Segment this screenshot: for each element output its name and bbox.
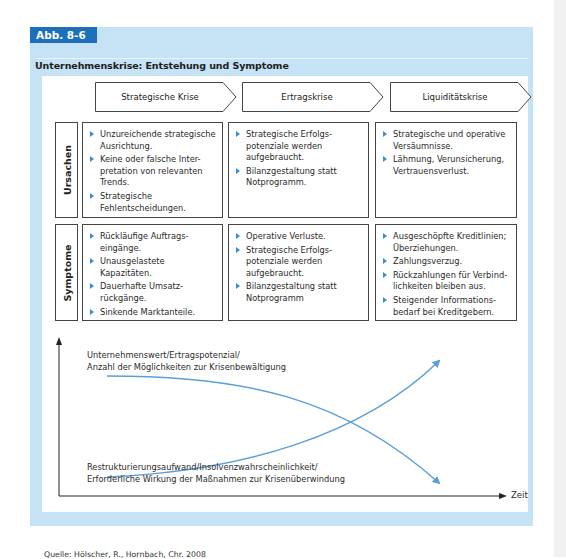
y-axis-arrow-icon — [56, 337, 62, 345]
diagram-area: Strategische Krise Ertragskrise Liquidit… — [42, 76, 528, 512]
crisis-curve-graph — [42, 76, 528, 512]
label-line: Anzahl der Möglichkeiten zur Krisenbewäl… — [87, 361, 286, 373]
figure-panel: Abb. 8-6 Unternehmenskrise: Entstehung u… — [30, 27, 533, 526]
source-citation: Quelle: Hölscher, R., Hornbach, Chr. 200… — [44, 550, 206, 559]
x-axis-label: Zeit — [511, 489, 528, 500]
title-divider — [36, 58, 528, 59]
figure-number-tab: Abb. 8-6 — [30, 27, 97, 43]
curve-increasing-label: Restrukturierungsaufwand/Insolvenzwahrsc… — [87, 461, 345, 485]
label-line: Unternehmenswert/Ertragspotenzial/ — [87, 349, 286, 361]
figure-title: Unternehmenskrise: Entstehung und Sympto… — [35, 60, 289, 71]
curve-increasing — [107, 361, 439, 477]
label-line: Erforderliche Wirkung der Maßnahmen zur … — [87, 473, 345, 485]
label-line: Restrukturierungsaufwand/Insolvenzwahrsc… — [87, 461, 345, 473]
x-axis-arrow-icon — [499, 493, 507, 499]
page-edge — [554, 0, 566, 557]
curve-decreasing-label: Unternehmenswert/Ertragspotenzial/ Anzah… — [87, 349, 286, 373]
